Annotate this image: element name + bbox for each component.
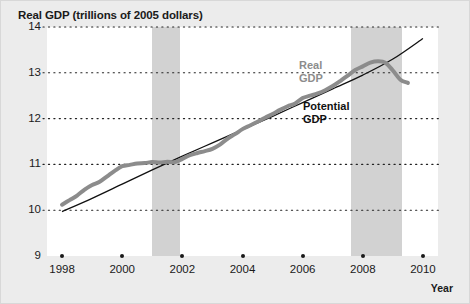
y-tick-label-9: 9 [15,249,41,261]
chart-title: Real GDP (trillions of 2005 dollars) [18,9,203,21]
x-tick-label-2006: 2006 [279,263,327,275]
x-tick-label-2008: 2008 [339,263,387,275]
y-tick-label-12: 12 [15,112,41,124]
x-tick-label-2000: 2000 [98,263,146,275]
potential-gdp-label: Potential GDP [303,100,349,125]
plot-area [47,27,438,256]
x-tick-label-2010: 2010 [399,263,447,275]
real-gdp-label: Real GDP [299,59,323,84]
x-tick-dot-2000 [120,254,124,258]
plot-lines [47,27,438,256]
x-tick-dot-2002 [180,254,184,258]
x-tick-label-1998: 1998 [38,263,86,275]
chart-figure: Real GDP (trillions of 2005 dollars) 910… [0,0,470,304]
x-tick-dot-2010 [421,254,425,258]
x-tick-dot-2006 [301,254,305,258]
x-tick-dot-2008 [361,254,365,258]
gridlines [43,27,442,210]
y-tick-label-11: 11 [15,157,41,169]
x-tick-label-2004: 2004 [219,263,267,275]
series-line-real-gdp [62,61,408,204]
y-tick-label-14: 14 [15,20,41,32]
y-tick-label-13: 13 [15,66,41,78]
y-tick-label-10: 10 [15,203,41,215]
x-tick-label-2002: 2002 [158,263,206,275]
x-tick-dot-1998 [60,254,64,258]
x-tick-dot-2004 [241,254,245,258]
x-axis-title: Year [431,282,453,294]
